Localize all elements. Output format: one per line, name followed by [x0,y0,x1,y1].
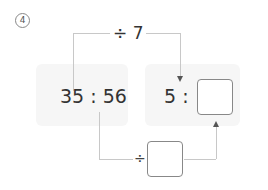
bottom-answer-box[interactable] [147,141,183,177]
left-ratio-text: 35 : 56 [60,85,127,107]
top-connector-left-line [73,33,74,91]
bottom-connector-right-line [216,126,217,159]
problem-number-badge: 4 [15,13,30,28]
bottom-connector-left-line [99,112,100,159]
arrow-down-icon [177,76,183,82]
bottom-operation-label: ÷ [134,150,146,166]
bottom-connector-line-right [184,159,216,160]
top-connector-right-line [180,33,181,77]
bottom-connector-line-left [99,159,133,160]
right-ratio-text: 5 : [164,85,189,107]
arrow-up-icon [213,121,219,127]
right-answer-box[interactable] [197,79,233,115]
top-operation-label: ÷ 7 [110,23,146,43]
